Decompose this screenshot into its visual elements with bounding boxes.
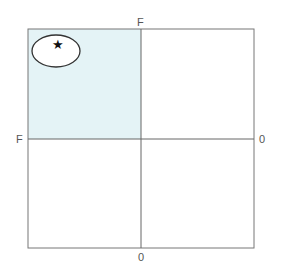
quadrant-diagram xyxy=(0,0,282,265)
label-top: F xyxy=(137,17,144,28)
label-left: F xyxy=(16,134,23,145)
label-right: 0 xyxy=(259,134,265,145)
star-icon: ★ xyxy=(52,38,64,51)
label-bottom: 0 xyxy=(138,252,144,263)
